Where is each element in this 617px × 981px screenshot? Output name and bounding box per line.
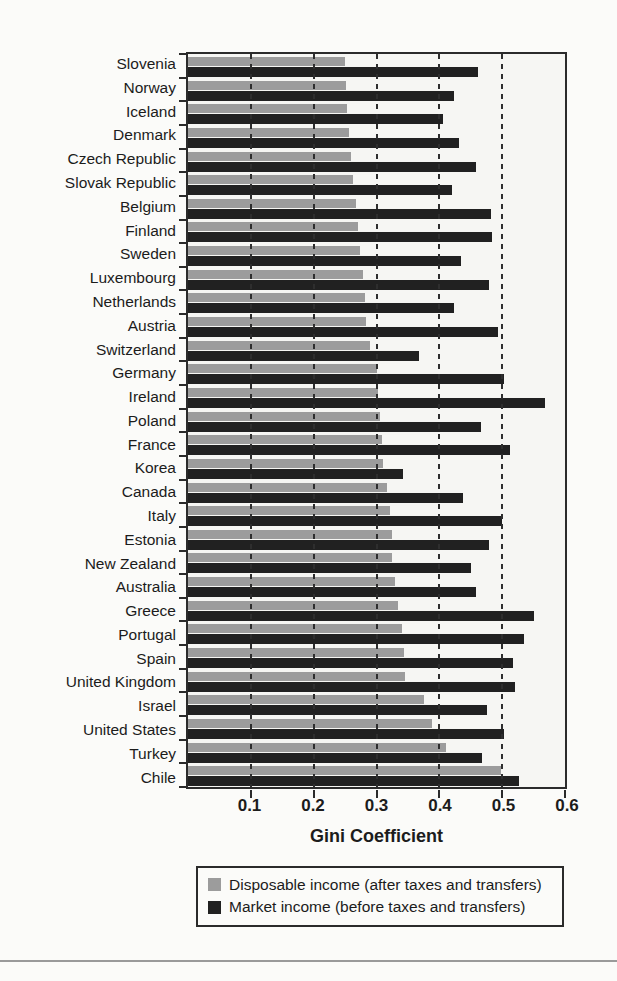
category-axis-tick <box>179 289 188 291</box>
market-income-bar <box>188 445 510 455</box>
category-axis-tick <box>179 195 188 197</box>
legend-entry-label: Disposable income (after taxes and trans… <box>229 875 542 894</box>
category-axis-tick <box>179 266 188 268</box>
legend-entry: Disposable income (after taxes and trans… <box>208 875 552 894</box>
disposable-income-bar <box>188 222 358 231</box>
category-label: Spain <box>0 647 176 671</box>
category-axis-tick <box>179 77 188 79</box>
category-label: Denmark <box>0 123 176 147</box>
category-axis-tick <box>179 100 188 102</box>
category-axis-tick <box>179 526 188 528</box>
disposable-income-bar <box>188 553 392 562</box>
market-income-bar <box>188 658 513 668</box>
category-label: Estonia <box>0 528 176 552</box>
category-axis-tick <box>179 668 188 670</box>
disposable-income-bar <box>188 246 360 255</box>
category-label: Austria <box>0 314 176 338</box>
category-axis-tick <box>179 762 188 764</box>
category-label: Slovenia <box>0 52 176 76</box>
market-income-bar <box>188 611 534 621</box>
category-axis-tick <box>179 408 188 410</box>
market-income-bar <box>188 587 476 597</box>
category-axis-tick <box>179 313 188 315</box>
market-income-bar <box>188 232 492 242</box>
category-label: Czech Republic <box>0 147 176 171</box>
disposable-income-bar <box>188 672 405 681</box>
disposable-income-bar <box>188 81 346 90</box>
category-axis-tick <box>179 124 188 126</box>
disposable-income-bar <box>188 743 446 752</box>
disposable-income-bar <box>188 577 395 586</box>
disposable-income-bar <box>188 128 349 137</box>
market-income-bar <box>188 516 502 526</box>
category-label: Chile <box>0 765 176 789</box>
disposable-income-bar <box>188 766 501 775</box>
category-axis-tick <box>179 550 188 552</box>
category-label: Switzerland <box>0 337 176 361</box>
disposable-income-bar <box>188 506 390 515</box>
category-label: Korea <box>0 456 176 480</box>
x-axis-title: Gini Coefficient <box>186 826 567 847</box>
category-axis-tick <box>179 242 188 244</box>
legend-entry-label: Market income (before taxes and transfer… <box>229 897 525 916</box>
disposable-income-bar <box>188 435 382 444</box>
x-axis-tick-label: 0.6 <box>555 796 579 816</box>
market-income-bar <box>188 540 489 550</box>
category-axis-tick <box>179 360 188 362</box>
category-axis-tick <box>179 171 188 173</box>
plot-area <box>186 52 567 789</box>
category-label: United States <box>0 718 176 742</box>
category-axis-tick <box>179 502 188 504</box>
category-label: United Kingdom <box>0 670 176 694</box>
category-label: Israel <box>0 694 176 718</box>
market-income-bar <box>188 138 459 148</box>
x-axis-tick-label: 0.3 <box>365 796 389 816</box>
category-label: Greece <box>0 599 176 623</box>
category-axis-tick <box>179 715 188 717</box>
category-label: Poland <box>0 409 176 433</box>
category-label: Belgium <box>0 195 176 219</box>
disposable-income-bar <box>188 388 378 397</box>
market-income-bar <box>188 563 471 573</box>
category-axis-tick <box>179 337 188 339</box>
market-income-bar <box>188 469 403 479</box>
disposable-income-bar <box>188 624 402 633</box>
category-label: Luxembourg <box>0 266 176 290</box>
category-axis-tick <box>179 219 188 221</box>
market-income-bar <box>188 682 515 692</box>
legend-entry: Market income (before taxes and transfer… <box>208 897 552 916</box>
market-income-bar <box>188 634 524 644</box>
category-label: Germany <box>0 361 176 385</box>
market-income-bar <box>188 776 519 786</box>
category-label: Iceland <box>0 100 176 124</box>
market-income-bar <box>188 351 419 361</box>
x-axis-tick-labels: 0.10.20.30.40.50.6 <box>186 796 567 818</box>
market-income-bar <box>188 209 491 219</box>
market-income-bar <box>188 162 476 172</box>
category-label: Netherlands <box>0 290 176 314</box>
market-income-bar <box>188 91 454 101</box>
category-axis-tick <box>179 573 188 575</box>
x-axis-tick-label: 0.2 <box>301 796 325 816</box>
category-axis-tick <box>179 455 188 457</box>
x-axis-tick-label: 0.5 <box>492 796 516 816</box>
disposable-income-bar <box>188 719 432 728</box>
market-income-swatch <box>208 901 221 914</box>
disposable-income-bar <box>188 57 345 66</box>
category-label: Sweden <box>0 242 176 266</box>
market-income-bar <box>188 280 489 290</box>
x-axis-tick-label: 0.4 <box>428 796 452 816</box>
disposable-income-bar <box>188 175 353 184</box>
gini-coefficient-figure: SloveniaNorwayIcelandDenmarkCzech Republ… <box>0 0 617 981</box>
category-axis-tick <box>179 597 188 599</box>
disposable-income-bar <box>188 695 424 704</box>
gridline <box>376 54 378 787</box>
category-axis-tick <box>179 479 188 481</box>
market-income-bar <box>188 303 454 313</box>
disposable-income-bar <box>188 648 404 657</box>
disposable-income-bar <box>188 530 392 539</box>
legend: Disposable income (after taxes and trans… <box>196 866 564 927</box>
disposable-income-bar <box>188 199 356 208</box>
category-axis-tick <box>179 620 188 622</box>
gridline <box>250 54 252 787</box>
